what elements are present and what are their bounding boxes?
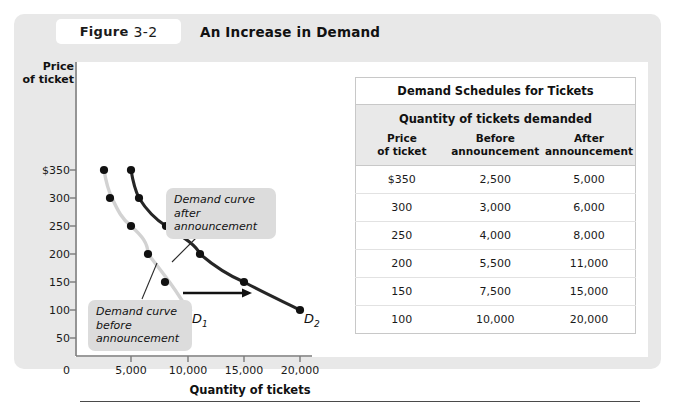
x-tick-marks [131, 356, 300, 362]
cell-after: 15,000 [543, 278, 636, 306]
table-subheader-row: Quantity of tickets demanded [356, 105, 636, 130]
cell-after: 5,000 [543, 166, 636, 194]
column-header-after: After announcement [543, 129, 636, 166]
cell-price: 100 [356, 306, 448, 334]
cell-before: 5,500 [448, 250, 543, 278]
callout-before-leader [142, 263, 157, 299]
y-tick-marks [70, 170, 76, 338]
table-subheader: Quantity of tickets demanded [356, 105, 636, 130]
cell-price: 250 [356, 222, 448, 250]
curve-label-d2: D2 [304, 311, 320, 329]
column-header-price-line2: of ticket [358, 145, 446, 158]
demand-schedules-table: Demand Schedules for Tickets Quantity of… [355, 77, 636, 334]
cell-price: 300 [356, 194, 448, 222]
column-header-before-line1: Before [450, 132, 541, 145]
table-header-row: Price of ticket Before announcement Afte… [356, 129, 636, 166]
table-row: 300 3,000 6,000 [356, 194, 636, 222]
cell-after: 11,000 [543, 250, 636, 278]
column-header-price-line1: Price [358, 132, 446, 145]
cell-before: 2,500 [448, 166, 543, 194]
cell-after: 20,000 [543, 306, 636, 334]
cell-after: 6,000 [543, 194, 636, 222]
cell-price: 200 [356, 250, 448, 278]
table-row: 100 10,000 20,000 [356, 306, 636, 334]
cell-price: $350 [356, 166, 448, 194]
callout-demand-after: Demand curve after announcement [166, 188, 276, 239]
cell-before: 3,000 [448, 194, 543, 222]
cell-before: 10,000 [448, 306, 543, 334]
table-title: Demand Schedules for Tickets [356, 78, 636, 105]
column-header-after-line1: After [545, 132, 633, 145]
callout-after-leader [172, 238, 196, 262]
column-header-price: Price of ticket [356, 129, 448, 166]
shift-arrow-icon [183, 289, 252, 298]
table-title-row: Demand Schedules for Tickets [356, 78, 636, 105]
column-header-before: Before announcement [448, 129, 543, 166]
table-row: 200 5,500 11,000 [356, 250, 636, 278]
callout-demand-before: Demand curve before announcement [88, 300, 192, 351]
table-row: 250 4,000 8,000 [356, 222, 636, 250]
table-row: $350 2,500 5,000 [356, 166, 636, 194]
column-header-after-line2: announcement [545, 145, 633, 158]
curve-label-d1: D1 [192, 311, 208, 329]
cell-before: 7,500 [448, 278, 543, 306]
cell-after: 8,000 [543, 222, 636, 250]
cell-before: 4,000 [448, 222, 543, 250]
bottom-divider [80, 401, 640, 402]
table-row: 150 7,500 15,000 [356, 278, 636, 306]
cell-price: 150 [356, 278, 448, 306]
column-header-before-line2: announcement [450, 145, 541, 158]
